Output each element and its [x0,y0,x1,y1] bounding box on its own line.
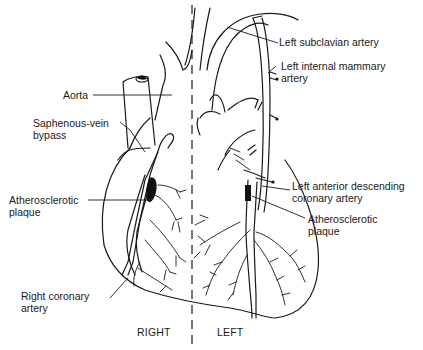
label-left-anterior-descending-artery: Left anterior descending coronary artery [292,180,405,204]
lima-vessel [253,18,263,210]
label-text: coronary artery [292,192,405,204]
heart-outline [102,148,318,318]
label-text: artery [281,72,385,84]
label-text: Atherosclerotic [9,194,78,206]
label-text: Left subclavian artery [279,36,379,48]
label-atherosclerotic-plaque-right: Atherosclerotic plaque [9,194,78,218]
label-text: Left internal mammary [281,60,385,72]
label-saphenous-vein-bypass: Saphenous-vein bypass [33,117,109,141]
plaque-right [146,178,156,202]
label-text: Right coronary [21,290,89,302]
label-text: plaque [9,206,78,218]
label-text: artery [21,302,89,314]
label-text: Aorta [63,89,88,101]
side-label-left: LEFT [217,326,243,338]
label-aorta: Aorta [63,89,88,101]
aorta-stump [123,76,155,148]
plaque-left [245,185,251,201]
label-left-subclavian-artery: Left subclavian artery [279,36,379,48]
label-text: Atherosclerotic [308,213,377,225]
label-atherosclerotic-plaque-left: Atherosclerotic plaque [308,213,377,237]
label-left-internal-mammary-artery: Left internal mammary artery [281,60,385,84]
side-label-right: RIGHT [137,326,171,338]
label-text: Left anterior descending [292,180,405,192]
label-text: bypass [33,129,109,141]
label-text: plaque [308,225,377,237]
label-text: Saphenous-vein [33,117,109,129]
label-right-coronary-artery: Right coronary artery [21,290,89,314]
